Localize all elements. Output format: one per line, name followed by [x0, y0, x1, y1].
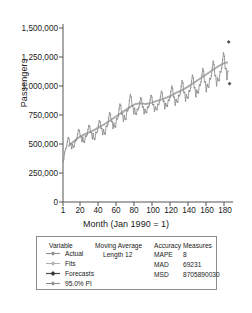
marker-actual	[224, 56, 226, 58]
x-axis-title: Month (Jan 1990 = 1)	[0, 219, 252, 229]
data-series-layer	[62, 40, 231, 162]
accuracy-value-mape: 8	[183, 251, 187, 258]
marker-actual	[213, 64, 215, 66]
marker-actual	[185, 100, 187, 102]
x-axis-tick-labels: 1 20 40 60 80 100 120 140 160 180	[0, 206, 252, 220]
x-tick-label: 120	[164, 206, 178, 215]
x-tick-label: 1	[61, 206, 66, 215]
marker-actual	[98, 125, 100, 127]
marker-actual	[154, 111, 156, 113]
legend-label-fits: Fits	[65, 260, 76, 267]
marker-forecasts	[227, 40, 231, 44]
marker-actual	[123, 115, 125, 117]
legend-variable-header: Variable	[49, 242, 73, 249]
x-tick-label: 100	[146, 206, 160, 215]
accuracy-value-mad: 69231	[183, 261, 201, 268]
legend-symbol-actual	[45, 250, 61, 257]
marker-actual	[77, 133, 79, 135]
marker-actual	[222, 59, 224, 61]
legend-symbol-prediction-interval	[45, 280, 61, 287]
marker-forecasts	[228, 82, 232, 86]
marker-actual	[195, 96, 197, 98]
x-tick-label: 20	[75, 206, 84, 215]
moving-average-chart: Passengers 1,500,000 1,250,000 1,000,000…	[0, 0, 252, 313]
marker-actual	[103, 129, 105, 131]
marker-actual	[129, 100, 131, 102]
marker-actual	[87, 129, 89, 131]
legend-accuracy-header: Accuracy Measures	[154, 242, 212, 249]
marker-actual	[221, 67, 223, 69]
accuracy-value-msd: 8705890030	[183, 271, 220, 278]
marker-actual	[226, 79, 228, 81]
marker-actual	[205, 91, 207, 93]
marker-actual	[143, 113, 145, 115]
marker-actual	[170, 91, 172, 93]
marker-actual	[223, 52, 225, 54]
marker-actual	[211, 67, 213, 69]
legend-label-prediction-interval: 95.0% PI	[65, 280, 92, 287]
marker-actual	[149, 99, 151, 101]
marker-actual	[216, 85, 218, 87]
chart-legend: Variable Moving Average Accuracy Measure…	[36, 236, 217, 290]
marker-actual	[212, 60, 214, 62]
marker-actual	[108, 117, 110, 119]
marker-actual	[134, 107, 136, 109]
legend-symbol-forecasts	[45, 270, 61, 277]
marker-actual	[133, 113, 135, 115]
accuracy-name-mape: MAPE	[154, 251, 173, 258]
marker-actual	[174, 104, 176, 106]
marker-actual	[227, 70, 229, 72]
marker-actual	[190, 87, 192, 89]
marker-actual	[81, 141, 83, 143]
marker-actual	[112, 127, 114, 129]
marker-actual	[180, 86, 182, 88]
accuracy-name-mad: MAD	[154, 261, 169, 268]
marker-actual	[164, 108, 166, 110]
legend-symbol-fits	[45, 260, 61, 267]
marker-actual	[91, 138, 93, 140]
marker-actual	[160, 96, 162, 98]
marker-actual	[191, 81, 193, 83]
marker-actual	[66, 141, 68, 143]
x-tick-label: 140	[182, 206, 196, 215]
marker-actual	[201, 74, 203, 76]
x-tick-label: 40	[93, 206, 102, 215]
legend-moving-average-header: Moving Average	[95, 242, 142, 249]
marker-actual	[102, 134, 104, 136]
marker-actual	[211, 75, 213, 77]
accuracy-name-msd: MSD	[154, 271, 169, 278]
marker-actual	[113, 122, 115, 124]
x-tick-label: 80	[129, 206, 138, 215]
legend-label-forecasts: Forecasts	[65, 270, 94, 277]
marker-actual	[92, 133, 94, 135]
y-axis-ticks	[59, 28, 63, 202]
marker-actual	[118, 108, 120, 110]
x-tick-label: 60	[111, 206, 120, 215]
x-tick-label: 180	[218, 206, 232, 215]
legend-label-actual: Actual	[65, 250, 83, 257]
legend-moving-average-length: Length 12	[103, 251, 132, 258]
x-tick-label: 160	[200, 206, 214, 215]
series-line-actual	[63, 53, 228, 161]
marker-actual	[123, 121, 125, 123]
marker-actual	[200, 81, 202, 83]
marker-actual	[71, 148, 73, 150]
